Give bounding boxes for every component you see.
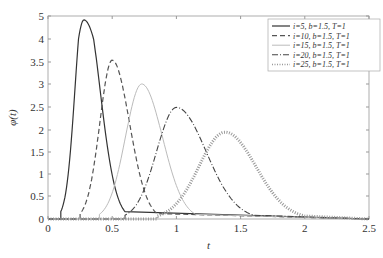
y-tick-label: 1.5	[30, 146, 44, 158]
chart: 00.511.522.500.511.522.533.545tφ(t)i=5, …	[0, 0, 383, 258]
legend-label: i=25, b=1.5, T=1	[293, 60, 350, 69]
x-axis-label: t	[207, 239, 211, 251]
y-tick-label: 3.5	[30, 56, 44, 68]
y-tick-label: 0	[39, 213, 45, 225]
series-line	[48, 107, 369, 219]
series-line	[48, 60, 369, 219]
x-tick-label: 1	[174, 222, 180, 234]
legend-label: i=20, b=1.5, T=1	[293, 51, 350, 60]
x-tick-label: 0.5	[105, 222, 119, 234]
series-line	[48, 84, 369, 219]
x-tick-label: 0	[45, 222, 51, 234]
y-tick-label: 2.5	[30, 101, 44, 113]
series-line	[48, 132, 369, 219]
plot-area: 00.511.522.500.511.522.533.545tφ(t)i=5, …	[0, 0, 383, 258]
y-tick-label: 1	[39, 168, 45, 180]
legend-label: i=5, b=1.5, T=1	[293, 22, 346, 31]
x-tick-label: 2	[302, 222, 308, 234]
x-tick-label: 2.5	[362, 222, 376, 234]
y-axis-label: φ(t)	[6, 109, 19, 126]
y-tick-label: 2	[39, 124, 45, 136]
legend-label: i=10, b=1.5, T=1	[293, 32, 350, 41]
y-tick-label: 5	[39, 10, 45, 22]
y-tick-label: 4	[39, 33, 45, 45]
x-tick-label: 1.5	[234, 222, 248, 234]
y-tick-label: 0.5	[30, 190, 44, 202]
legend-label: i=15, b=1.5, T=1	[293, 41, 350, 50]
y-tick-label: 3	[39, 78, 45, 90]
